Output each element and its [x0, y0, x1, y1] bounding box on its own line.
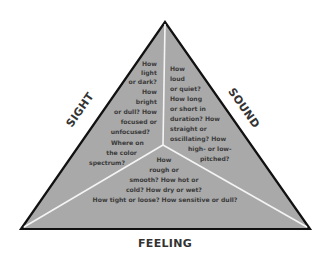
senses-triangle-diagram: How light or dark? How bright or dull? H… — [0, 0, 329, 269]
feeling-label: FEELING — [138, 237, 192, 250]
sight-label: SIGHT — [64, 90, 97, 130]
